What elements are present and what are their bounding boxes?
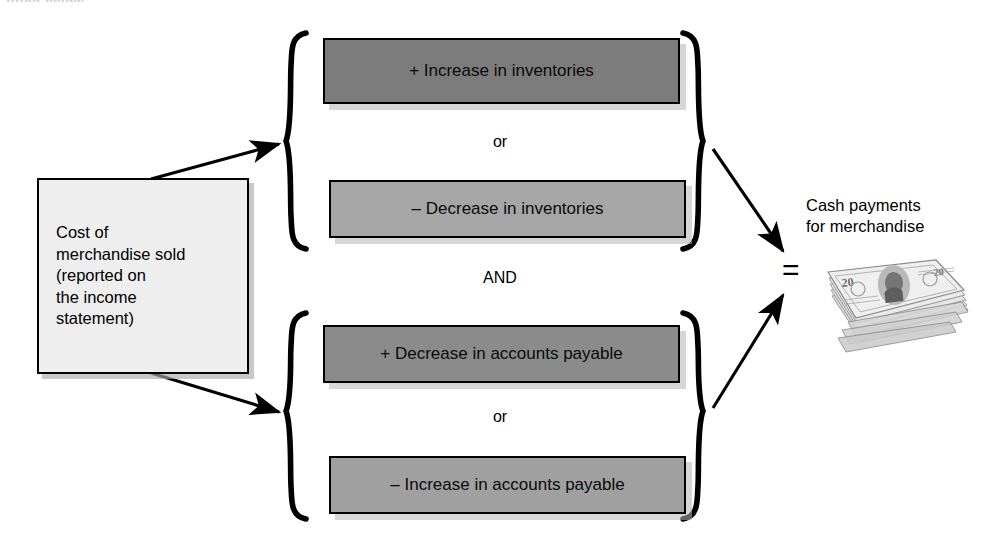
term-box-increase-in-inventories[interactable]: + Increase in inventories xyxy=(323,38,680,104)
connector-or-accounts-payable: or xyxy=(0,408,1004,426)
term-box-label: – Increase in accounts payable xyxy=(390,475,624,495)
term-box-label: – Decrease in inventories xyxy=(412,199,604,219)
term-box-decrease-in-inventories[interactable]: – Decrease in inventories xyxy=(329,180,686,238)
equals-sign: = xyxy=(782,255,800,285)
term-box-decrease-in-accounts-payable[interactable]: + Decrease in accounts payable xyxy=(323,325,680,383)
arrow-inventories-to-result xyxy=(713,149,783,251)
money-stack-icon: 20 20 xyxy=(822,252,974,360)
term-box-label: + Decrease in accounts payable xyxy=(380,344,622,364)
term-box-label: + Increase in inventories xyxy=(409,61,594,81)
page-top-text-remnant: fitted below. xyxy=(6,0,88,2)
diagram-canvas: fitted below. xyxy=(0,0,1004,546)
connector-or-inventories: or xyxy=(0,133,1004,151)
result-label-cash-payments: Cash payments for merchandise xyxy=(806,195,996,238)
arrow-source-to-accounts-payable xyxy=(151,373,279,412)
svg-text:20: 20 xyxy=(841,275,854,290)
arrow-accounts-payable-to-result xyxy=(713,295,783,408)
term-box-increase-in-accounts-payable[interactable]: – Increase in accounts payable xyxy=(329,456,686,514)
